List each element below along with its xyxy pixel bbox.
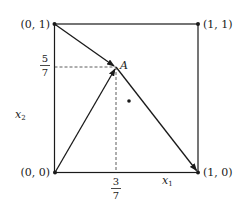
corner-label-0-1: (0, 1) xyxy=(20,18,50,31)
corner-dot-0-0 xyxy=(53,171,57,175)
arrow-origin-to-a xyxy=(55,69,115,173)
x-tick-numerator: 3 xyxy=(113,176,119,187)
corner-dot-1-1 xyxy=(196,22,200,26)
corner-label-0-0: (0, 0) xyxy=(20,166,50,179)
x-axis-label: x1 xyxy=(162,174,173,188)
x-tick-denominator: 7 xyxy=(113,190,119,201)
y-axis-label: x2 xyxy=(15,108,26,122)
corner-label-1-0: (1, 0) xyxy=(203,166,233,179)
corner-label-1-1: (1, 1) xyxy=(203,18,233,31)
arrow-top-left-to-a xyxy=(55,24,115,66)
corner-dot-1-0 xyxy=(196,171,200,175)
unit-square xyxy=(55,24,199,173)
extra-point-dot xyxy=(127,99,131,103)
arrow-a-to-bottom-right xyxy=(116,67,197,171)
corner-dot-0-1 xyxy=(53,22,57,26)
diagram-canvas: (0, 1) (1, 1) (0, 0) (1, 0) A 5 7 3 7 x1… xyxy=(0,0,240,210)
y-tick-numerator: 5 xyxy=(42,53,48,64)
point-a-label: A xyxy=(119,59,128,72)
y-tick-denominator: 7 xyxy=(42,67,48,78)
